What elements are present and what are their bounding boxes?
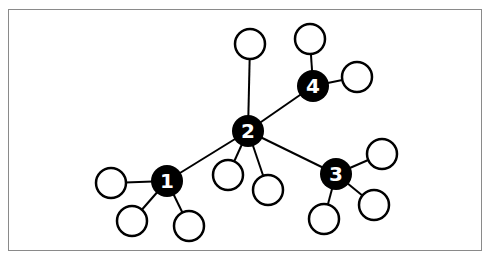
leaf-node (235, 29, 265, 59)
hub-node-4: 4 (297, 70, 329, 102)
hub-label: 1 (160, 169, 174, 193)
leaf-node (96, 168, 126, 198)
leaf-node (359, 190, 389, 220)
hub-node-2: 2 (232, 115, 264, 147)
hub-nodes: 1234 (151, 70, 352, 197)
leaf-node (174, 211, 204, 241)
hub-node-1: 1 (151, 165, 183, 197)
leaf-node (213, 160, 243, 190)
leaf-node (117, 206, 147, 236)
network-graph: 1234 (0, 0, 495, 263)
leaf-node (367, 139, 397, 169)
leaf-node (342, 62, 372, 92)
hub-label: 4 (306, 74, 320, 98)
hub-label: 2 (241, 119, 255, 143)
leaf-node (309, 204, 339, 234)
leaf-node (253, 175, 283, 205)
leaf-node (295, 24, 325, 54)
hub-node-3: 3 (320, 158, 352, 190)
hub-label: 3 (329, 162, 343, 186)
